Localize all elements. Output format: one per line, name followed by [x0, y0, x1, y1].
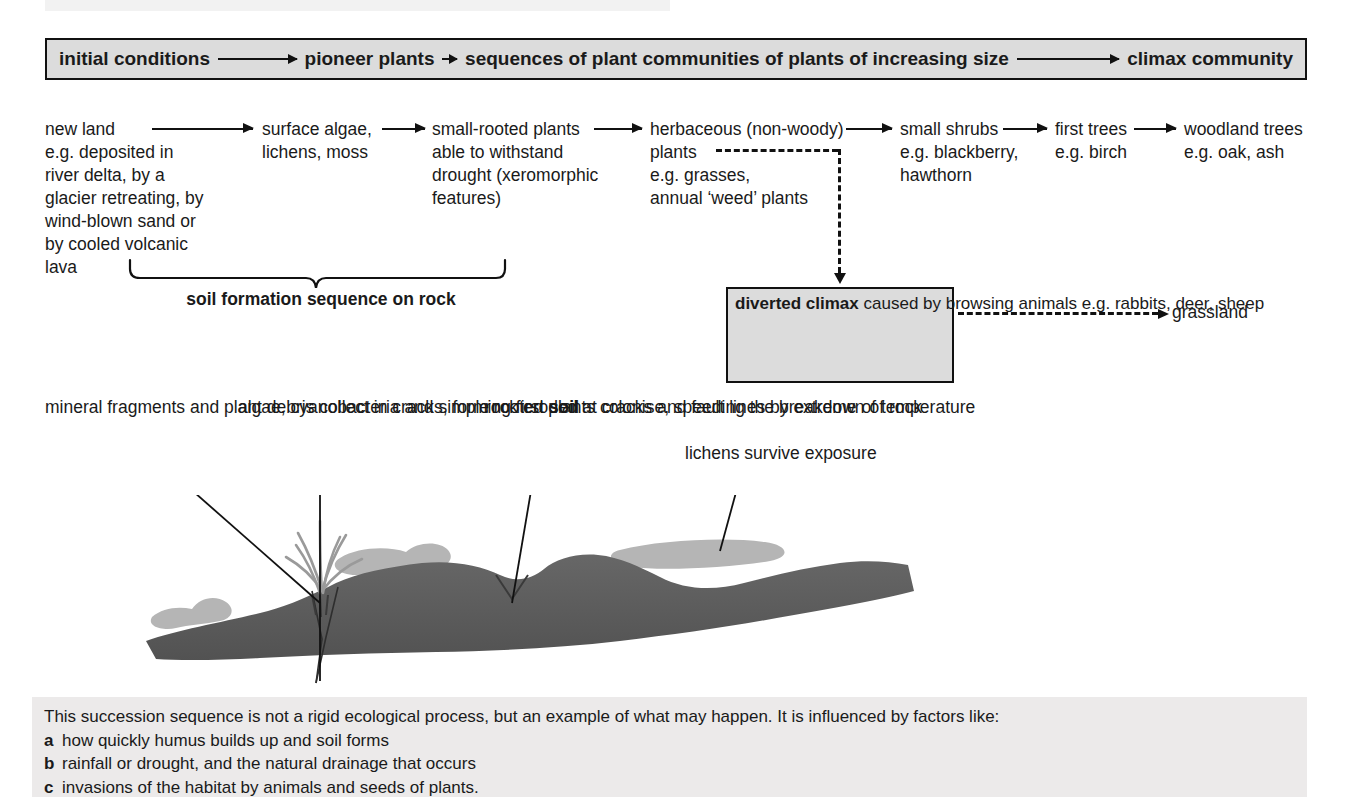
- annotation-line: mineral fragments: [45, 397, 185, 417]
- dashed-connector-vertical: [838, 149, 841, 273]
- stage-line: first trees: [1055, 118, 1127, 141]
- annotation-lichens-survive: lichens survive exposure: [685, 442, 877, 465]
- banner-segment-pioneer-plants: pioneer plants: [305, 48, 435, 70]
- stage-line: e.g. blackberry,: [900, 141, 1018, 164]
- arrow-right-icon: [1003, 123, 1047, 134]
- stage-line: hawthorn: [900, 164, 1018, 187]
- stage-line: woodland trees: [1184, 118, 1303, 141]
- arrow-right-icon: [152, 123, 253, 134]
- arrow-right-icon: [382, 123, 425, 134]
- dashed-connector-horizontal: [716, 149, 838, 152]
- caption-item: b rainfall or drought, and the natural d…: [44, 752, 1295, 776]
- arrow-right-icon: [846, 123, 892, 134]
- annotation-line: lines by extreme: [729, 397, 856, 417]
- annotation-line: cracks and fault: [602, 397, 725, 417]
- caption-item-text: invasions of the habitat by animals and …: [62, 778, 479, 797]
- arrow-right-icon: [594, 123, 642, 134]
- stage-herbaceous-plants: herbaceous (non-woody) plants e.g. grass…: [650, 118, 844, 210]
- caption-item-marker: b: [44, 752, 54, 776]
- caption-item: a how quickly humus builds up and soil f…: [44, 729, 1295, 753]
- stage-line: river delta, by a: [45, 164, 204, 187]
- stage-line: e.g. birch: [1055, 141, 1127, 164]
- caption-lead: This succession sequence is not a rigid …: [44, 705, 1295, 729]
- grassland-label: grassland: [1172, 302, 1248, 323]
- stage-line: features): [432, 187, 598, 210]
- stage-line: lichens, moss: [262, 141, 372, 164]
- arrow-right-icon: [1017, 54, 1119, 64]
- stage-line: e.g. deposited in: [45, 141, 204, 164]
- diverted-climax-line: caused by: [864, 294, 942, 313]
- caption-box: This succession sequence is not a rigid …: [32, 697, 1307, 797]
- brace-label-line: soil formation: [186, 289, 302, 309]
- annotation-rock-eroded: rock eroded at cracks and fault lines by…: [485, 396, 975, 419]
- diverted-climax-line: browsing animals: [946, 294, 1077, 313]
- stage-line: by cooled volcanic: [45, 233, 204, 256]
- arrow-right-icon: [1134, 123, 1176, 134]
- caption-item-text: rainfall or drought, and the natural dra…: [62, 754, 476, 773]
- stage-small-shrubs: small shrubs e.g. blackberry, hawthorn: [900, 118, 1018, 187]
- stage-first-trees: first trees e.g. birch: [1055, 118, 1127, 164]
- soil-formation-brace-icon: [126, 258, 512, 292]
- succession-overview-banner: initial conditions pioneer plants sequen…: [45, 38, 1307, 80]
- arrow-right-icon: [442, 54, 457, 64]
- stage-line: glacier retreating, by: [45, 187, 204, 210]
- brace-label-line: on rock: [392, 289, 455, 309]
- banner-segment-sequences: sequences of plant communities of plants…: [465, 48, 1009, 70]
- stage-line: small-rooted plants: [432, 118, 598, 141]
- stage-woodland-trees: woodland trees e.g. oak, ash: [1184, 118, 1303, 164]
- annotation-line: lichens survive: [685, 443, 800, 463]
- stage-line: small shrubs: [900, 118, 1018, 141]
- diverted-climax-heading: diverted climax: [735, 294, 859, 313]
- caption-item-marker: a: [44, 729, 53, 753]
- stage-line: e.g. oak, ash: [1184, 141, 1303, 164]
- stage-line: annual ‘weed’ plants: [650, 187, 844, 210]
- stage-line: plants: [650, 141, 844, 164]
- banner-segment-initial-conditions: initial conditions: [59, 48, 210, 70]
- stage-small-rooted-plants: small-rooted plants able to withstand dr…: [432, 118, 598, 210]
- arrow-right-icon: [218, 54, 297, 64]
- stage-line: e.g. grasses,: [650, 164, 844, 187]
- rock-weathering-illustration: [140, 495, 930, 685]
- annotation-line: of temperature: [861, 397, 975, 417]
- annotation-line: rock eroded at: [485, 397, 597, 417]
- stage-line: drought (xeromorphic: [432, 164, 598, 187]
- stage-line: herbaceous (non-woody): [650, 118, 844, 141]
- stage-surface-algae: surface algae, lichens, moss: [262, 118, 372, 164]
- stage-line: able to withstand: [432, 141, 598, 164]
- caption-item: c invasions of the habitat by animals an…: [44, 776, 1295, 800]
- caption-item-marker: c: [44, 776, 53, 800]
- stage-new-land: new land e.g. deposited in river delta, …: [45, 118, 204, 279]
- stage-line: wind-blown sand or: [45, 210, 204, 233]
- annotation-line: exposure: [805, 443, 877, 463]
- stage-line: surface algae,: [262, 118, 372, 141]
- rock-mass-icon: [146, 555, 914, 683]
- diverted-climax-box: diverted climax caused by browsing anima…: [726, 287, 954, 383]
- annotation-line: algae, cyanobacteria: [238, 397, 400, 417]
- brace-label-line: sequence: [307, 289, 388, 309]
- banner-segment-climax-community: climax community: [1127, 48, 1293, 70]
- soil-formation-label: soil formation sequence on rock: [186, 288, 456, 310]
- page-top-strip: [45, 0, 670, 11]
- caption-item-text: how quickly humus builds up and soil for…: [62, 731, 389, 750]
